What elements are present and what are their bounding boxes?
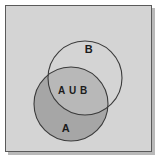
venn-diagram-figure: B A U B A — [0, 0, 160, 160]
venn-diagram-canvas: B A U B A — [0, 0, 160, 160]
label-a: A — [62, 122, 71, 134]
label-b: B — [85, 43, 94, 55]
label-union: A U B — [58, 85, 88, 96]
